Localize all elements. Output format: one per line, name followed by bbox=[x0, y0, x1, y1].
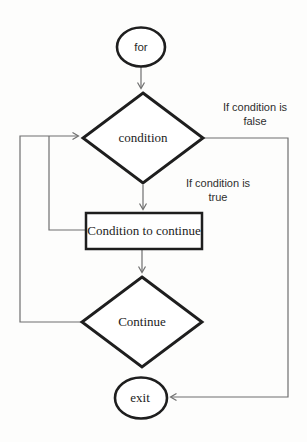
exit-label: exit bbox=[130, 390, 150, 405]
false-branch-line1: If condition is bbox=[223, 101, 288, 113]
for-start-label: for bbox=[134, 41, 148, 53]
condition-label: condition bbox=[118, 130, 168, 145]
edge-continue-loopback-to-condition bbox=[20, 136, 82, 322]
true-branch-line2: true bbox=[209, 191, 228, 203]
false-branch-annotation: If condition is false bbox=[223, 101, 288, 127]
flowchart-page: for condition Condition to continue Cont… bbox=[0, 0, 307, 442]
edge-body-loopback-to-condition bbox=[49, 136, 85, 230]
false-branch-line2: false bbox=[243, 115, 266, 127]
continue-label: Continue bbox=[118, 314, 166, 329]
condition-to-continue-label: Condition to continue bbox=[87, 223, 201, 238]
for-loop-flowchart: for condition Condition to continue Cont… bbox=[0, 0, 307, 442]
true-branch-line1: If condition is bbox=[186, 177, 251, 189]
true-branch-annotation: If condition is true bbox=[186, 177, 251, 203]
